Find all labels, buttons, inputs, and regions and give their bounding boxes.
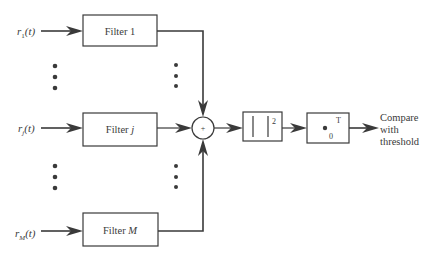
svg-text:Filter M: Filter M [103,225,138,236]
wire-filter-j-to-summer [157,123,192,133]
block-diagram: r1(t) rj(t) rM(t) Filter 1 Filter j Filt… [0,0,440,259]
wire-magnitude-to-integrator [282,123,307,133]
plus-icon: + [201,124,206,133]
output-line-2: with [380,124,399,135]
output-line-3: threshold [380,136,420,147]
filter-j-block: Filter j [83,113,157,146]
ellipsis-right-upper [174,63,178,88]
svg-text:Filter j: Filter j [106,124,134,135]
input-arrow-m [41,226,83,236]
ellipsis-right-lower [174,164,178,189]
wire-summer-to-magnitude [214,123,243,133]
upper-limit-label: T [336,116,341,125]
exponent-label: 2 [272,117,276,126]
filter-m-block: Filter M [83,213,158,246]
input-arrow-j [41,123,83,133]
input-label-r1: r1(t) [17,25,36,40]
wire-integrator-to-output [349,123,379,133]
wire-filter-1-to-summer [157,31,208,117]
input-arrow-1 [41,26,83,36]
output-line-1: Compare [380,112,419,123]
ellipsis-left-upper [53,64,58,91]
svg-text:Filter 1: Filter 1 [105,26,136,37]
summer-junction: + [192,117,214,139]
magnitude-squared-block: 2 [243,112,282,141]
input-label-rM: rM(t) [15,227,36,242]
wire-filter-m-to-summer [158,139,208,231]
input-label-rj: rj(t) [18,122,35,137]
integrator-block: T 0 [307,113,349,143]
output-label: Compare with threshold [380,112,420,147]
filter-1-block: Filter 1 [83,15,157,46]
ellipsis-left-lower [53,164,58,191]
lower-limit-label: 0 [329,132,333,141]
